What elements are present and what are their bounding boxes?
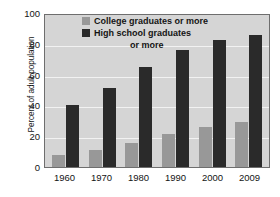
legend-label-college: College graduates or more	[94, 16, 208, 27]
x-tick-label: 1970	[83, 172, 120, 183]
bar-college-2000	[199, 127, 212, 167]
y-tick-label: 20	[12, 132, 40, 142]
y-tick-label: 80	[12, 40, 40, 50]
y-tick-label: 40	[12, 101, 40, 111]
bar-chart: Percent of adult population 100 80 60 40…	[0, 0, 280, 197]
bar-highschool-1980	[139, 67, 152, 167]
bar-highschool-2000	[213, 40, 226, 167]
x-tick-label: 2000	[194, 172, 231, 183]
bar-college-2009	[235, 122, 248, 167]
bar-highschool-1960	[66, 105, 79, 167]
y-tick-label: 60	[12, 71, 40, 81]
bar-college-1980	[125, 143, 138, 167]
bar-highschool-1970	[103, 88, 116, 167]
legend-label-highschool-continued: or more	[130, 40, 268, 51]
x-tick-label: 2009	[231, 172, 268, 183]
legend-entry-college: College graduates or more	[82, 16, 268, 27]
x-tick-label: 1960	[46, 172, 83, 183]
legend-label-highschool: High school graduates	[94, 28, 191, 39]
bar-college-1970	[89, 150, 102, 167]
bar-group	[47, 15, 84, 167]
bar-college-1960	[52, 155, 65, 167]
y-tick-label: 100	[12, 9, 40, 19]
x-tick-label: 1980	[120, 172, 157, 183]
x-axis-tick-labels: 1960 1970 1980 1990 2000 2009	[44, 172, 270, 183]
legend-entry-highschool: High school graduates	[82, 28, 268, 39]
y-axis-tick-labels: 100 80 60 40 20 0	[12, 0, 40, 197]
bar-highschool-1990	[176, 50, 189, 167]
bar-highschool-2009	[249, 35, 262, 167]
x-tick-label: 1990	[157, 172, 194, 183]
legend-swatch-highschool-icon	[82, 29, 90, 37]
y-tick-label: 0	[12, 163, 40, 173]
legend-swatch-college-icon	[82, 17, 90, 25]
bar-college-1990	[162, 134, 175, 167]
chart-legend: College graduates or more High school gr…	[82, 16, 268, 51]
